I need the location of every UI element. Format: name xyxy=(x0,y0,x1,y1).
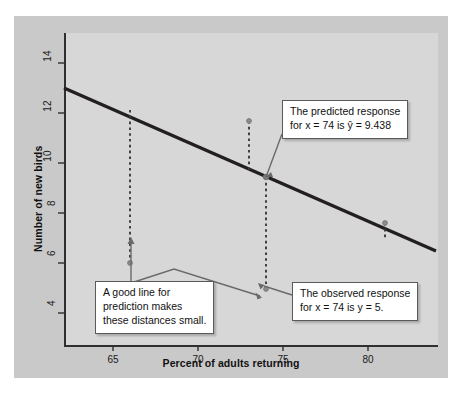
y-tick-label-6: 6 xyxy=(46,251,57,273)
y-tick-label-14: 14 xyxy=(42,51,53,73)
callout-observed-line-1: The observed response xyxy=(300,287,410,301)
figure-root: 14 12 10 8 6 4 65 70 75 80 Number of new… xyxy=(0,0,462,402)
y-tick-label-12: 12 xyxy=(42,101,53,123)
callout-predicted-response: The predicted response for x = 74 is ŷ =… xyxy=(282,100,408,139)
y-axis-title: Number of new birds xyxy=(32,146,44,252)
x-axis-title: Percent of adults returning xyxy=(0,357,462,369)
callout-predicted-line-1: The predicted response xyxy=(290,105,400,119)
callout-predicted-line-2: for x = 74 is ŷ = 9.438 xyxy=(290,119,400,133)
y-tick-label-4: 4 xyxy=(46,301,57,323)
callout-good-line: A good line for prediction makes these d… xyxy=(95,281,214,334)
callout-good-line-line-1: A good line for xyxy=(103,286,206,300)
y-tick-label-8: 8 xyxy=(46,201,57,223)
callout-good-line-line-2: prediction makes xyxy=(103,300,206,314)
callout-observed-line-2: for x = 74 is y = 5. xyxy=(300,301,410,315)
callout-observed-response: The observed response for x = 74 is y = … xyxy=(292,282,418,321)
callout-good-line-line-3: these distances small. xyxy=(103,314,206,328)
